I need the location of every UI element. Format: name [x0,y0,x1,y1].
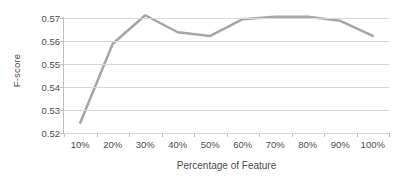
y-axis-tick [60,110,63,111]
y-axis-tick-label: 0.52 [42,128,61,139]
x-axis-tick [227,134,228,137]
x-axis-tick-label: 50% [201,139,220,150]
gridline [64,18,389,19]
y-axis-tick [60,64,63,65]
x-axis-tick-labels: 10%20%30%40%50%60%70%80%90%100% [64,139,389,155]
x-axis-tick [292,134,293,137]
y-axis-tick-label: 0.56 [42,36,61,47]
y-axis-tick [60,87,63,88]
x-axis-tick-label: 40% [168,139,187,150]
gridline [64,110,389,111]
x-axis-tick-label: 90% [331,139,350,150]
x-axis-tick-label: 30% [136,139,155,150]
gridline [64,41,389,42]
x-axis-tick-label: 80% [298,139,317,150]
x-axis-tick [194,134,195,137]
x-axis-tick-label: 100% [361,139,385,150]
x-axis-tick-label: 10% [71,139,90,150]
gridline [64,87,389,88]
x-axis-tick [129,134,130,137]
y-axis-tick-label: 0.54 [42,82,61,93]
y-axis-title-text: F-score [12,53,23,87]
y-axis-tick-label: 0.53 [42,105,61,116]
x-axis-tick-label: 20% [103,139,122,150]
y-axis-tick-label: 0.55 [42,59,61,70]
y-axis-tick [60,18,63,19]
x-axis-tick [324,134,325,137]
data-line [80,15,373,122]
x-axis-tick [97,134,98,137]
series-line-f-score [64,18,389,133]
x-axis-tick [64,134,65,137]
plot-area [64,18,389,133]
y-axis-tick-labels: 0.520.530.540.550.560.57 [26,0,62,140]
x-axis-ticks [64,134,389,138]
y-axis-tick [60,133,63,134]
y-axis-tick [60,41,63,42]
x-axis-tick [389,134,390,137]
y-axis-tick-label: 0.57 [42,13,61,24]
x-axis-tick-label: 70% [266,139,285,150]
x-axis-tick-label: 60% [233,139,252,150]
x-axis-tick [357,134,358,137]
gridline [64,64,389,65]
x-axis-title: Percentage of Feature [64,160,389,171]
line-chart: F-score 0.520.530.540.550.560.57 10%20%3… [0,0,401,182]
x-axis-tick [259,134,260,137]
x-axis-tick [162,134,163,137]
y-axis-title: F-score [6,0,28,140]
